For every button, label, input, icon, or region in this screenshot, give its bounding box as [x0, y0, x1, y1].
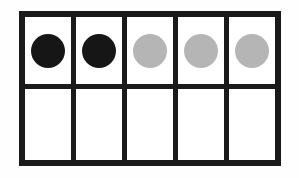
light-counter-dot — [133, 34, 167, 68]
ten-frame-cell-r0-c0 — [25, 17, 71, 84]
dark-counter-dot — [82, 34, 116, 68]
ten-frame — [19, 11, 281, 166]
ten-frame-cell-r1-c4 — [229, 89, 275, 160]
ten-frame-cell-r1-c3 — [178, 89, 224, 160]
ten-frame-cell-r1-c2 — [127, 89, 173, 160]
ten-frame-cell-r0-c2 — [127, 17, 173, 84]
dark-counter-dot — [31, 34, 65, 68]
ten-frame-cell-r0-c4 — [229, 17, 275, 84]
ten-frame-cell-r0-c1 — [76, 17, 122, 84]
ten-frame-cell-r1-c1 — [76, 89, 122, 160]
ten-frame-cell-r1-c0 — [25, 89, 71, 160]
light-counter-dot — [184, 34, 218, 68]
canvas — [0, 0, 299, 178]
light-counter-dot — [235, 34, 269, 68]
ten-frame-cell-r0-c3 — [178, 17, 224, 84]
